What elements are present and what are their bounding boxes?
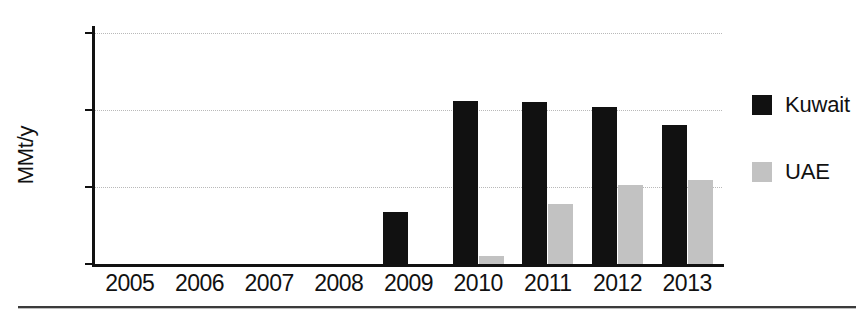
bar-uae-2013: [688, 180, 713, 264]
bars-layer: [95, 0, 722, 264]
x-tick-label-2006: 2006: [175, 270, 224, 297]
legend-swatch-kuwait: [752, 95, 772, 115]
x-tick-label-2007: 2007: [245, 270, 294, 297]
bar-chart-figure: MMt/y 0123 20052006200720082009201020112…: [0, 0, 868, 323]
bar-kuwait-2010: [453, 101, 478, 264]
y-tick-mark: [85, 32, 95, 34]
bar-uae-2011: [548, 204, 573, 264]
x-tick-label-2005: 2005: [105, 270, 154, 297]
bar-uae-2010: [479, 256, 504, 264]
bar-kuwait-2009: [383, 212, 408, 264]
legend-entry-uae: UAE: [752, 159, 864, 185]
x-tick-label-2012: 2012: [593, 270, 642, 297]
y-tick-mark: [85, 263, 95, 265]
x-tick-label-2010: 2010: [454, 270, 503, 297]
legend-label-kuwait: Kuwait: [785, 92, 850, 118]
x-tick-label-2011: 2011: [524, 270, 571, 297]
legend-swatch-uae: [752, 162, 772, 182]
y-tick-mark: [85, 186, 95, 188]
x-axis-line: [92, 264, 724, 267]
bottom-divider-shadow: [18, 308, 856, 309]
x-tick-label-2008: 2008: [314, 270, 363, 297]
bar-uae-2012: [618, 185, 643, 264]
legend-entry-kuwait: Kuwait: [752, 92, 864, 118]
bar-kuwait-2012: [592, 107, 617, 264]
chart-legend: KuwaitUAE: [752, 92, 864, 226]
bar-kuwait-2011: [522, 102, 547, 264]
bar-kuwait-2013: [662, 125, 687, 264]
legend-label-uae: UAE: [785, 159, 830, 185]
x-tick-label-2009: 2009: [384, 270, 433, 297]
x-tick-label-2013: 2013: [663, 270, 712, 297]
y-axis-title: MMt/y: [13, 95, 39, 215]
y-tick-mark: [85, 109, 95, 111]
